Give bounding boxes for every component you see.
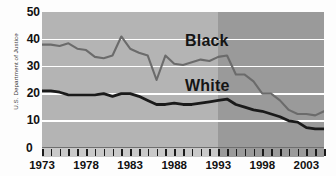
x-tick-1976 <box>68 149 70 156</box>
x-tick-1981 <box>113 149 115 156</box>
x-tick-2002 <box>298 149 300 156</box>
x-tick-1980 <box>104 149 106 156</box>
series-label-black: Black <box>185 32 229 50</box>
x-tick-2003 <box>306 149 308 156</box>
x-tick-1978 <box>86 149 88 156</box>
x-axis: 1973197819831988199319982003 <box>42 148 324 176</box>
x-tick-1985 <box>148 149 150 156</box>
line-series-white <box>42 91 324 129</box>
y-tick-label-30: 30 <box>14 60 40 72</box>
y-tick-label-0: 0 <box>26 141 33 155</box>
x-tick-1984 <box>139 149 141 156</box>
x-tick-1990 <box>192 149 194 156</box>
x-tick-1973 <box>42 149 44 156</box>
x-tick-label-1988: 1988 <box>161 159 187 171</box>
x-tick-label-1993: 1993 <box>205 159 231 171</box>
y-tick-label-10: 10 <box>14 114 40 126</box>
x-tick-1988 <box>174 149 176 156</box>
x-tick-1998 <box>262 149 264 156</box>
y-tick-label-20: 20 <box>14 87 40 99</box>
x-tick-1975 <box>60 149 62 156</box>
x-tick-2004 <box>315 149 317 156</box>
x-tick-label-1998: 1998 <box>250 159 276 171</box>
y-tick-label-50: 50 <box>14 6 40 18</box>
x-tick-1986 <box>157 149 159 156</box>
x-tick-1991 <box>201 149 203 156</box>
x-tick-2005 <box>324 149 326 156</box>
x-tick-label-1978: 1978 <box>73 159 99 171</box>
x-tick-1996 <box>245 149 247 156</box>
x-tick-1983 <box>130 149 132 156</box>
chart-container: U.S. Department of Justice 50 40 30 20 1… <box>0 0 336 176</box>
x-tick-1987 <box>165 149 167 156</box>
x-tick-1995 <box>236 149 238 156</box>
x-tick-1977 <box>77 149 79 156</box>
x-tick-1993 <box>218 149 220 156</box>
x-tick-1982 <box>121 149 123 156</box>
x-tick-1997 <box>254 149 256 156</box>
x-tick-2001 <box>289 149 291 156</box>
series-lines <box>42 12 324 148</box>
x-tick-1989 <box>183 149 185 156</box>
y-tick-label-40: 40 <box>14 33 40 45</box>
x-tick-label-1983: 1983 <box>117 159 143 171</box>
x-tick-1994 <box>227 149 229 156</box>
x-tick-1999 <box>271 149 273 156</box>
x-tick-1979 <box>95 149 97 156</box>
x-tick-label-2003: 2003 <box>294 159 320 171</box>
series-label-white: White <box>185 77 230 95</box>
x-tick-1974 <box>51 149 53 156</box>
plot-area <box>42 12 324 148</box>
x-tick-rail <box>42 148 324 157</box>
x-tick-label-1973: 1973 <box>29 159 55 171</box>
x-tick-2000 <box>280 149 282 156</box>
x-tick-1992 <box>209 149 211 156</box>
